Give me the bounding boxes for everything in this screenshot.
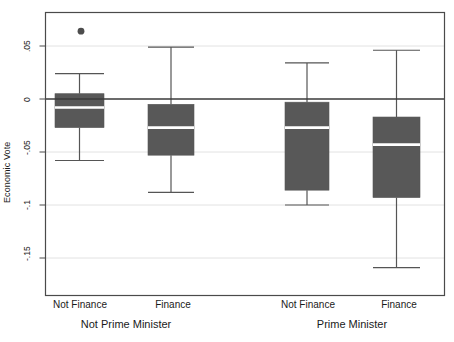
box-iqr xyxy=(373,117,420,198)
box-plot-figure: Economic Vote .05 0 -.05 -.1 -.15 Not Fi… xyxy=(0,0,454,342)
x-tick-label-not-finance-pm: Not Finance xyxy=(267,299,349,310)
y-tick-label-1: 0 xyxy=(22,95,38,105)
y-axis-title: Economic Vote xyxy=(2,112,18,232)
y-tick-label-2: -.05 xyxy=(22,145,38,155)
box-iqr xyxy=(285,102,329,190)
x-tick-label-not-finance-nopm: Not Finance xyxy=(39,299,121,310)
outlier-point-0 xyxy=(78,28,85,35)
x-group-label-not-prime-minister: Not Prime Minister xyxy=(48,318,204,330)
y-tick-label-3: -.1 xyxy=(22,200,38,210)
box-iqr xyxy=(148,104,194,155)
x-group-label-prime-minister: Prime Minister xyxy=(284,318,420,330)
y-tick-label-0: .05 xyxy=(22,42,38,52)
y-tick-label-4: -.15 xyxy=(22,251,38,261)
x-tick-label-finance-nopm: Finance xyxy=(134,299,212,310)
plot-area xyxy=(0,0,454,342)
x-tick-label-finance-pm: Finance xyxy=(360,299,438,310)
